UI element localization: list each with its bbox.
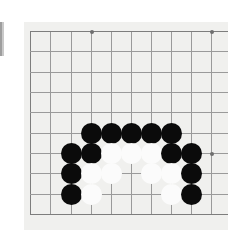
white-stone[interactable] (81, 184, 102, 205)
black-stone[interactable] (61, 163, 82, 184)
black-stone[interactable] (81, 123, 102, 144)
black-stone[interactable] (141, 123, 162, 144)
screenshot-root (0, 0, 240, 246)
white-stone[interactable] (161, 184, 182, 205)
white-stone[interactable] (101, 163, 122, 184)
black-stone[interactable] (61, 143, 82, 164)
black-stone[interactable] (101, 123, 122, 144)
white-stone[interactable] (81, 163, 102, 184)
black-stone[interactable] (81, 143, 102, 164)
black-stone[interactable] (181, 184, 202, 205)
black-stone[interactable] (181, 163, 202, 184)
black-stone[interactable] (161, 143, 182, 164)
black-stone[interactable] (121, 123, 142, 144)
black-stone[interactable] (61, 184, 82, 205)
white-stone[interactable] (141, 143, 162, 164)
black-stone[interactable] (181, 143, 202, 164)
white-stone[interactable] (121, 143, 142, 164)
white-stone[interactable] (161, 163, 182, 184)
white-stone[interactable] (141, 163, 162, 184)
black-stone[interactable] (161, 123, 182, 144)
stone-layer[interactable] (0, 0, 240, 246)
white-stone[interactable] (101, 143, 122, 164)
